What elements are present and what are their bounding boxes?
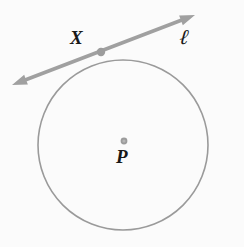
figure-canvas bbox=[0, 0, 244, 247]
label-center-p: P bbox=[116, 147, 128, 166]
geometry-figure: X P ℓ bbox=[0, 0, 244, 247]
tangent-point-marker bbox=[97, 48, 105, 56]
circle-shape bbox=[38, 60, 208, 230]
center-point-core bbox=[122, 139, 125, 142]
label-tangent-point-x: X bbox=[70, 28, 82, 47]
arrowhead-left-icon bbox=[12, 75, 28, 85]
